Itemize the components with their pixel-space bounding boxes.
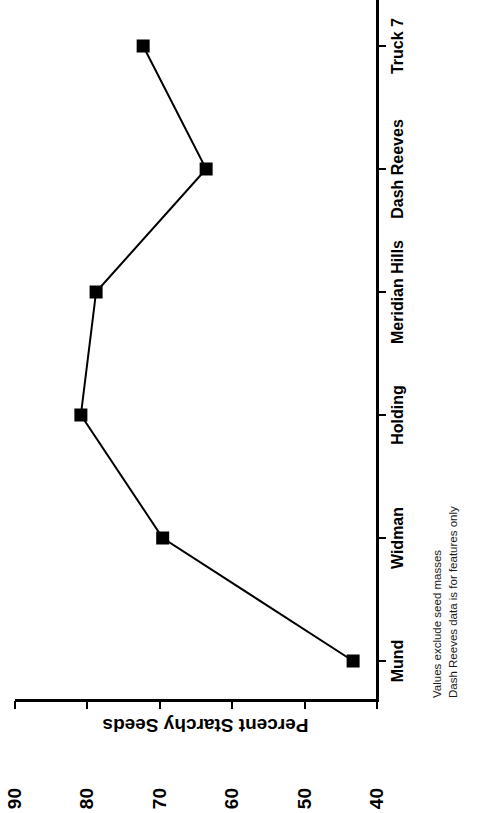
data-point-marker — [347, 655, 360, 668]
data-point-marker — [74, 409, 87, 422]
chart-annotation-line: Values exclude seed masses — [430, 506, 446, 698]
series-line — [81, 46, 353, 661]
data-point-marker — [90, 286, 103, 299]
data-point-marker — [156, 532, 169, 545]
chart-annotations: Values exclude seed massesDash Reeves da… — [430, 506, 461, 698]
data-point-marker — [137, 40, 150, 53]
data-point-marker — [200, 163, 213, 176]
chart-annotation-line: Dash Reeves data is for features only — [446, 506, 462, 698]
